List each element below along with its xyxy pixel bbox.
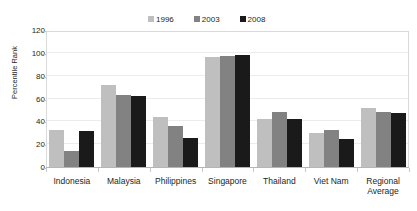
bar-regional-average-2008 bbox=[391, 113, 406, 168]
x-label-line: Malaysia bbox=[98, 176, 150, 186]
x-label-singapore: Singapore bbox=[202, 176, 254, 186]
x-label-line: Singapore bbox=[202, 176, 254, 186]
legend-swatch-1996 bbox=[148, 16, 154, 22]
bar-chart-figure: 199620032008 Percentile Rank 02040608010… bbox=[0, 0, 417, 211]
chart-legend: 199620032008 bbox=[148, 12, 288, 26]
bar-indonesia-1996 bbox=[49, 130, 64, 168]
legend-label-2003: 2003 bbox=[202, 15, 220, 24]
legend-swatch-2008 bbox=[240, 16, 246, 22]
bar-regional-average-2003 bbox=[376, 112, 391, 168]
legend-item-2008: 2008 bbox=[240, 15, 266, 24]
bar-malaysia-2008 bbox=[131, 96, 146, 168]
x-tick-mark-0 bbox=[98, 168, 99, 172]
x-label-thailand: Thailand bbox=[253, 176, 305, 186]
legend-item-2003: 2003 bbox=[194, 15, 220, 24]
bar-indonesia-2008 bbox=[79, 131, 94, 168]
x-axis-line bbox=[46, 167, 409, 168]
bar-singapore-2008 bbox=[235, 55, 250, 168]
x-tick-mark-2 bbox=[202, 168, 203, 172]
x-tick-mark-4 bbox=[305, 168, 306, 172]
bar-philippines-1996 bbox=[153, 117, 168, 168]
x-tick-mark-1 bbox=[150, 168, 151, 172]
bar-malaysia-2003 bbox=[116, 95, 131, 168]
bar-singapore-2003 bbox=[220, 56, 235, 168]
x-tick-mark-6 bbox=[409, 168, 410, 172]
bar-singapore-1996 bbox=[205, 57, 220, 168]
x-label-line: Indonesia bbox=[46, 176, 98, 186]
bar-group-malaysia bbox=[98, 31, 150, 168]
bar-thailand-2008 bbox=[287, 119, 302, 168]
x-tick-mark-3 bbox=[253, 168, 254, 172]
bar-viet-nam-2008 bbox=[339, 139, 354, 168]
x-label-line: Philippines bbox=[150, 176, 202, 186]
bar-group-indonesia bbox=[46, 31, 98, 168]
x-tick-mark-5 bbox=[357, 168, 358, 172]
bar-indonesia-2003 bbox=[64, 151, 79, 168]
bars-layer bbox=[46, 31, 409, 168]
bar-group-philippines bbox=[150, 31, 202, 168]
bar-group-regional-average bbox=[357, 31, 409, 168]
x-label-line: Thailand bbox=[253, 176, 305, 186]
x-label-line: Viet Nam bbox=[305, 176, 357, 186]
legend-swatch-2003 bbox=[194, 16, 200, 22]
y-axis-title: Percentile Rank bbox=[10, 28, 19, 118]
x-label-viet-nam: Viet Nam bbox=[305, 176, 357, 186]
x-label-philippines: Philippines bbox=[150, 176, 202, 186]
bar-regional-average-1996 bbox=[361, 108, 376, 169]
bar-group-viet-nam bbox=[305, 31, 357, 168]
bar-thailand-1996 bbox=[257, 119, 272, 168]
bar-malaysia-1996 bbox=[101, 85, 116, 168]
bar-philippines-2003 bbox=[168, 126, 183, 168]
bar-group-thailand bbox=[253, 31, 305, 168]
bar-philippines-2008 bbox=[183, 138, 198, 168]
x-tick-mark-origin bbox=[46, 168, 47, 172]
bar-viet-nam-2003 bbox=[324, 130, 339, 168]
x-label-indonesia: Indonesia bbox=[46, 176, 98, 186]
x-label-line: Average bbox=[357, 186, 409, 196]
bar-thailand-2003 bbox=[272, 112, 287, 168]
x-label-regional-average: RegionalAverage bbox=[357, 176, 409, 196]
legend-item-1996: 1996 bbox=[148, 15, 174, 24]
bar-group-singapore bbox=[202, 31, 254, 168]
x-label-malaysia: Malaysia bbox=[98, 176, 150, 186]
legend-label-1996: 1996 bbox=[156, 15, 174, 24]
legend-label-2008: 2008 bbox=[248, 15, 266, 24]
bar-viet-nam-1996 bbox=[309, 133, 324, 168]
x-label-line: Regional bbox=[357, 176, 409, 186]
